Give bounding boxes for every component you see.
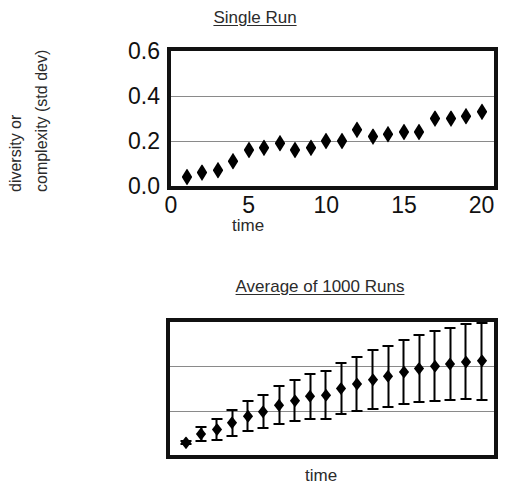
x-axis-tick-label: 0: [165, 192, 178, 219]
diamond-marker-icon: [337, 133, 348, 150]
error-bar-cap-bottom: [460, 398, 471, 400]
error-bar-cap-top: [196, 426, 207, 428]
chart-title-average-of-1000-runs: Average of 1000 Runs: [236, 277, 405, 297]
gridline-y: [170, 411, 494, 412]
gridline-y: [171, 141, 494, 142]
error-bar-cap-top: [398, 339, 409, 341]
error-bar-cap-top: [274, 385, 285, 387]
diamond-marker-icon: [290, 142, 301, 159]
diamond-marker-icon: [274, 135, 285, 152]
diamond-marker-icon: [243, 142, 254, 159]
diamond-marker-icon: [212, 162, 223, 179]
error-bar-cap-bottom: [414, 401, 425, 403]
error-bar-cap-bottom: [227, 435, 238, 437]
error-bar-cap-top: [476, 322, 487, 324]
diamond-marker-icon: [445, 110, 456, 127]
error-bar-cap-top: [336, 362, 347, 364]
plot-area-single-run: [167, 47, 498, 190]
diamond-marker-icon: [228, 153, 239, 170]
error-bar-cap-top: [211, 418, 222, 420]
x-axis-tick-labels: 05101520: [167, 192, 498, 220]
chart-title-single-run: Single Run: [213, 8, 296, 28]
diamond-marker-icon: [368, 128, 379, 145]
error-bar-cap-bottom: [320, 418, 331, 420]
error-bar-cap-top: [351, 356, 362, 358]
error-bar-cap-bottom: [383, 406, 394, 408]
error-bar-cap-bottom: [305, 418, 316, 420]
plot-inner-average-runs: [170, 322, 494, 455]
diamond-marker-icon: [197, 164, 208, 181]
x-axis-tick-label: 10: [313, 192, 339, 219]
diamond-marker-icon: [414, 124, 425, 141]
y-axis-title-line-2: complexity (std dev): [34, 50, 50, 192]
error-bar-cap-top: [258, 394, 269, 396]
error-bar-cap-bottom: [196, 440, 207, 442]
error-bar-cap-bottom: [429, 400, 440, 402]
error-bar-cap-bottom: [445, 399, 456, 401]
x-axis-tick-label: 20: [469, 192, 495, 219]
error-bar-cap-bottom: [211, 439, 222, 441]
error-bar-cap-top: [414, 334, 425, 336]
figure: Single Run diversity or complexity (std …: [0, 0, 508, 495]
y-axis-title: diversity or complexity (std dev): [2, 42, 106, 192]
y-axis-tick-label: 0.2: [128, 128, 160, 155]
error-bar-cap-bottom: [274, 423, 285, 425]
y-axis-tick-label: 0.6: [128, 38, 160, 65]
error-bar-cap-top: [367, 349, 378, 351]
diamond-marker-icon: [476, 103, 487, 120]
error-bar-cap-top: [242, 400, 253, 402]
x-axis-tick-label: 5: [242, 192, 255, 219]
error-bar-cap-top: [460, 323, 471, 325]
diamond-marker-icon: [430, 110, 441, 127]
diamond-marker-icon: [399, 124, 410, 141]
x-axis-title-top: time: [232, 216, 264, 236]
diamond-marker-icon: [461, 108, 472, 125]
error-bar-cap-bottom: [242, 430, 253, 432]
error-bar-cap-top: [305, 373, 316, 375]
error-bar-cap-top: [383, 345, 394, 347]
diamond-marker-icon: [352, 121, 363, 138]
error-bar-cap-bottom: [289, 420, 300, 422]
error-bar-cap-bottom: [258, 427, 269, 429]
y-axis-title-line-1: diversity or: [8, 115, 24, 192]
diamond-marker-icon: [321, 133, 332, 150]
y-axis-tick-label: 0.4: [128, 83, 160, 110]
diamond-marker-icon: [180, 436, 190, 449]
y-axis-tick-label: 0.0: [128, 173, 160, 200]
x-axis-title-bottom: time: [305, 466, 337, 486]
error-bar-cap-top: [227, 409, 238, 411]
error-bar-cap-top: [429, 330, 440, 332]
diamond-marker-icon: [181, 169, 192, 186]
error-bar-cap-top: [320, 370, 331, 372]
error-bar-cap-top: [289, 379, 300, 381]
error-bar-cap-bottom: [351, 410, 362, 412]
y-axis-tick-labels: 0.00.20.40.6: [100, 47, 160, 190]
error-bar-cap-bottom: [476, 399, 487, 401]
error-bar-cap-bottom: [336, 413, 347, 415]
error-bar-cap-bottom: [367, 408, 378, 410]
plot-area-average-runs: [166, 318, 498, 459]
error-bar-cap-bottom: [398, 403, 409, 405]
gridline-y: [171, 96, 494, 97]
x-axis-tick-label: 15: [391, 192, 417, 219]
plot-inner-single-run: [171, 51, 494, 186]
error-bar-cap-top: [445, 327, 456, 329]
